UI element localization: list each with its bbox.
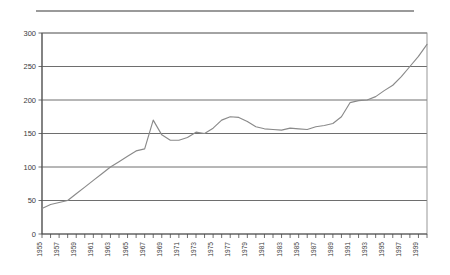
x-tick-label-1963: 1963: [104, 242, 111, 257]
y-tick-label-300: 300: [23, 29, 36, 38]
x-tick-labels-group: 1955195719591961196319651967196919711973…: [36, 242, 419, 257]
x-tick-label-1991: 1991: [344, 242, 351, 257]
x-tick-label-1967: 1967: [139, 242, 146, 257]
x-tick-label-1995: 1995: [378, 242, 385, 257]
y-tick-label-100: 100: [23, 163, 36, 172]
x-tick-label-1979: 1979: [241, 242, 248, 257]
x-tick-label-1961: 1961: [87, 242, 94, 257]
chart-svg: 050100150200250300 195519571959196119631…: [0, 18, 450, 268]
y-tick-labels-group: 050100150200250300: [23, 29, 36, 239]
y-axis: [39, 33, 43, 234]
x-tick-label-1989: 1989: [327, 242, 334, 257]
y-tick-label-0: 0: [32, 230, 36, 239]
x-tick-label-1971: 1971: [173, 242, 180, 257]
x-tick-label-1959: 1959: [70, 242, 77, 257]
x-axis: [42, 234, 427, 238]
y-tick-label-150: 150: [23, 129, 36, 138]
top-horizontal-rule: [36, 10, 414, 12]
x-tick-label-1969: 1969: [156, 242, 163, 257]
line-chart-figure: 050100150200250300 195519571959196119631…: [0, 0, 450, 275]
x-tick-label-1975: 1975: [207, 242, 214, 257]
x-tick-label-1973: 1973: [190, 242, 197, 257]
x-tick-label-1965: 1965: [122, 242, 129, 257]
y-tick-label-250: 250: [23, 62, 36, 71]
x-tick-label-1981: 1981: [258, 242, 265, 257]
x-tick-label-1957: 1957: [53, 242, 60, 257]
x-tick-label-1997: 1997: [395, 242, 402, 257]
y-tick-label-200: 200: [23, 96, 36, 105]
data-line-series-1: [42, 44, 427, 208]
x-tick-label-1993: 1993: [361, 242, 368, 257]
x-tick-label-1985: 1985: [293, 242, 300, 257]
data-series-group: [42, 44, 427, 208]
x-tick-label-1999: 1999: [412, 242, 419, 257]
x-tick-label-1955: 1955: [36, 242, 43, 257]
y-tick-label-50: 50: [28, 196, 36, 205]
x-tick-label-1987: 1987: [310, 242, 317, 257]
x-tick-label-1977: 1977: [224, 242, 231, 257]
chart-plot-container: 050100150200250300 195519571959196119631…: [0, 18, 450, 268]
x-tick-label-1983: 1983: [276, 242, 283, 257]
